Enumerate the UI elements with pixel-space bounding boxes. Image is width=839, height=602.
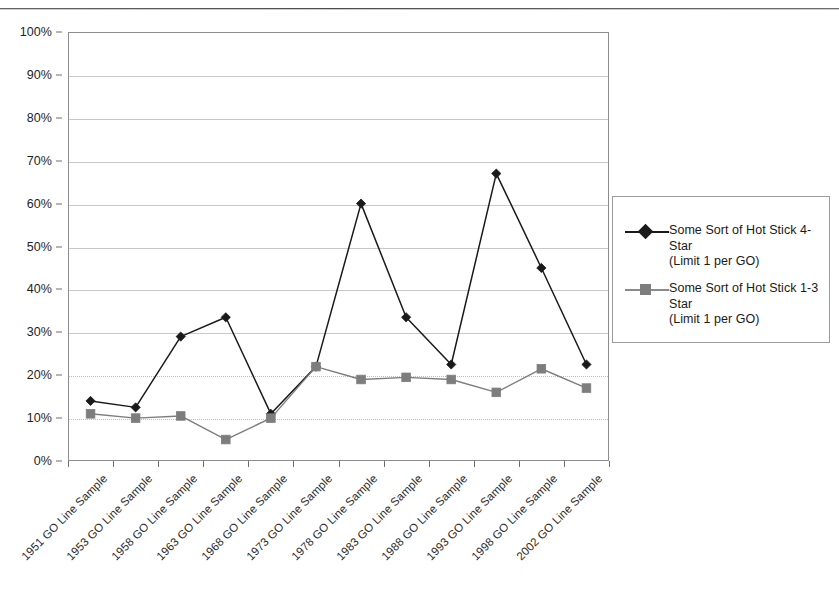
series-layer bbox=[68, 32, 609, 461]
legend-key-diamond-icon bbox=[625, 224, 669, 239]
data-point-marker bbox=[312, 362, 321, 371]
line-chart: 0%10%20%30%40%50%60%70%80%90%100% 1951 G… bbox=[0, 0, 839, 602]
x-tick-mark bbox=[68, 461, 69, 467]
data-point-marker bbox=[356, 199, 365, 208]
data-point-marker bbox=[131, 403, 140, 412]
data-point-marker bbox=[86, 396, 95, 405]
x-tick-mark bbox=[158, 461, 159, 467]
data-point-marker bbox=[582, 384, 591, 393]
x-tick-mark bbox=[113, 461, 114, 467]
series-line bbox=[91, 367, 587, 440]
x-tick-mark bbox=[384, 461, 385, 467]
data-point-marker bbox=[537, 263, 546, 272]
series-line bbox=[91, 174, 587, 414]
x-tick-mark bbox=[429, 461, 430, 467]
legend-item-4-star: Some Sort of Hot Stick 4-Star (Limit 1 p… bbox=[625, 223, 825, 270]
data-point-marker bbox=[221, 435, 230, 444]
legend-key-square-icon bbox=[625, 282, 669, 297]
data-point-marker bbox=[492, 169, 501, 178]
x-tick-mark bbox=[293, 461, 294, 467]
legend-label-1-3-star: Some Sort of Hot Stick 1-3 Star (Limit 1… bbox=[669, 281, 825, 328]
x-tick-mark bbox=[248, 461, 249, 467]
x-tick-mark bbox=[203, 461, 204, 467]
data-point-marker bbox=[267, 414, 276, 423]
data-point-marker bbox=[447, 375, 456, 384]
data-point-marker bbox=[537, 364, 546, 373]
data-point-marker bbox=[176, 332, 185, 341]
chart-legend: Some Sort of Hot Stick 4-Star (Limit 1 p… bbox=[612, 196, 830, 343]
data-point-marker bbox=[492, 388, 501, 397]
x-tick-mark bbox=[519, 461, 520, 467]
data-point-marker bbox=[582, 360, 591, 369]
data-point-marker bbox=[176, 412, 185, 421]
data-point-marker bbox=[357, 375, 366, 384]
x-tick-mark bbox=[609, 461, 610, 467]
data-point-marker bbox=[131, 414, 140, 423]
data-point-marker bbox=[221, 313, 230, 322]
legend-label-1-3-star-line1: Some Sort of Hot Stick 1-3 Star bbox=[669, 281, 818, 311]
x-tick-mark bbox=[474, 461, 475, 467]
data-point-marker bbox=[86, 410, 95, 419]
legend-label-4-star-line1: Some Sort of Hot Stick 4-Star bbox=[669, 223, 811, 253]
x-tick-mark bbox=[564, 461, 565, 467]
legend-label-4-star: Some Sort of Hot Stick 4-Star (Limit 1 p… bbox=[669, 223, 825, 270]
data-point-marker bbox=[402, 373, 411, 382]
legend-item-1-3-star: Some Sort of Hot Stick 1-3 Star (Limit 1… bbox=[625, 281, 825, 328]
legend-label-1-3-star-line2: (Limit 1 per GO) bbox=[669, 312, 825, 328]
x-tick-mark bbox=[339, 461, 340, 467]
legend-label-4-star-line2: (Limit 1 per GO) bbox=[669, 254, 825, 270]
